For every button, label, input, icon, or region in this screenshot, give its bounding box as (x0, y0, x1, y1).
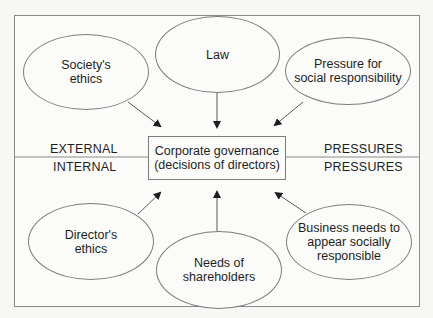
external-label: EXTERNAL (50, 142, 118, 156)
arrow-directors-ethics (138, 193, 160, 214)
external-pressures-label: PRESSURES (324, 142, 403, 156)
law-ellipse: Law (155, 16, 280, 93)
needs-of-shareholders-label: Needs of shareholders (183, 256, 255, 284)
directors-ethics-ellipse: Director's ethics (28, 203, 154, 280)
internal-pressures-label: PRESSURES (324, 160, 403, 174)
directors-ethics-label: Director's ethics (65, 228, 117, 256)
arrow-pressure-social-responsibility (275, 102, 303, 125)
needs-of-shareholders-ellipse: Needs of shareholders (156, 231, 282, 309)
corporate-governance-label: Corporate governance (decisions of direc… (154, 144, 280, 172)
pressure-social-responsibility-ellipse: Pressure for social responsibility (285, 37, 411, 105)
business-needs-ellipse: Business needs to appear socially respon… (286, 204, 412, 280)
internal-label: INTERNAL (53, 160, 116, 174)
business-needs-label: Business needs to appear socially respon… (298, 221, 400, 263)
arrow-society-ethics (128, 102, 160, 126)
law-label: Law (206, 48, 229, 62)
society-ethics-label: Society's ethics (61, 58, 111, 86)
corporate-governance-box: Corporate governance (decisions of direc… (148, 136, 286, 180)
pressure-social-responsibility-label: Pressure for social responsibility (294, 57, 402, 85)
society-ethics-ellipse: Society's ethics (23, 34, 149, 110)
arrow-business-needs (276, 193, 306, 213)
